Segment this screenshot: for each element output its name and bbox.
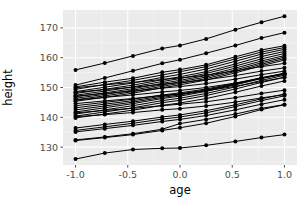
y-tick-label: 150 <box>40 82 58 93</box>
x-axis-title: age <box>169 183 190 197</box>
x-tick-label: 0.0 <box>172 169 187 180</box>
y-tick-label: 130 <box>40 142 58 153</box>
x-tick-label: -1.0 <box>66 169 85 180</box>
y-axis-title: height <box>1 69 15 106</box>
chart-canvas: 130140150160170 -1.0-0.50.00.51.0 height… <box>0 0 305 212</box>
y-tick-label: 160 <box>40 52 58 63</box>
y-tick-label: 170 <box>40 22 58 33</box>
y-tick-label: 140 <box>40 112 58 123</box>
x-tick-label: -0.5 <box>118 169 137 180</box>
x-tick-label: 1.0 <box>277 169 292 180</box>
growth-trajectory-chart: 130140150160170 -1.0-0.50.00.51.0 height… <box>0 0 305 212</box>
x-tick-label: 0.5 <box>225 169 240 180</box>
